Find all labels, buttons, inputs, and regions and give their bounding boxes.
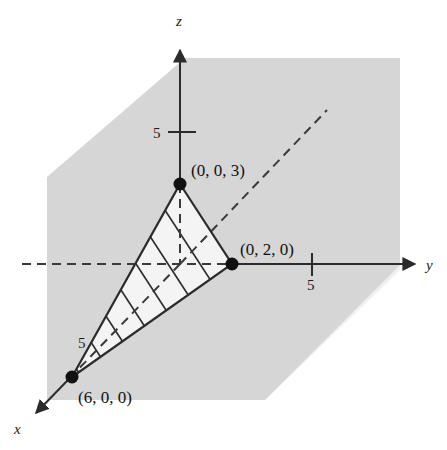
point-label-x-intercept: (6, 0, 0) — [78, 388, 132, 407]
point-label-z-intercept: (0, 0, 3) — [191, 161, 245, 180]
point-label-y-intercept: (0, 2, 0) — [240, 240, 294, 259]
point-y-intercept[interactable] — [226, 258, 239, 271]
x-tick-label-5: 5 — [78, 335, 86, 351]
y-tick-label-5: 5 — [307, 277, 315, 293]
z-tick-label-5: 5 — [153, 125, 161, 141]
y-axis-label: y — [424, 257, 433, 273]
coordinate-diagram: z y x 5 5 5 (0, 0, 3) (0, 2, 0) (6, 0, 0… — [0, 0, 447, 450]
figure-container: z y x 5 5 5 (0, 0, 3) (0, 2, 0) (6, 0, 0… — [0, 0, 447, 450]
z-axis-label: z — [175, 13, 182, 29]
point-z-intercept[interactable] — [174, 178, 187, 191]
x-axis-label: x — [13, 421, 21, 437]
point-x-intercept[interactable] — [66, 371, 79, 384]
